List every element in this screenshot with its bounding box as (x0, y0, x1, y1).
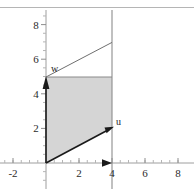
vector-u-arrowhead (105, 127, 115, 133)
vector-span-figure: -2 2 4 6 8 2 4 6 8 u w (0, 0, 194, 190)
plot-canvas: -2 2 4 6 8 2 4 6 8 u w (0, 0, 194, 190)
y-tick-label-2: 2 (33, 122, 39, 134)
y-tick-label-6: 6 (33, 53, 39, 65)
x-tick-label-4: 4 (109, 167, 115, 179)
x-tick-label-6: 6 (142, 167, 148, 179)
vector-u-label: u (116, 116, 121, 127)
shaded-span-region (46, 77, 112, 163)
y-tick-label-4: 4 (33, 88, 39, 100)
x-tick-label-minus2: -2 (8, 167, 17, 179)
vector-w-label: w (51, 63, 59, 74)
x-axis-marker-arrowhead (102, 159, 112, 167)
y-tick-label-8: 8 (33, 19, 39, 31)
x-tick-label-8: 8 (175, 167, 181, 179)
x-tick-label-2: 2 (76, 167, 82, 179)
